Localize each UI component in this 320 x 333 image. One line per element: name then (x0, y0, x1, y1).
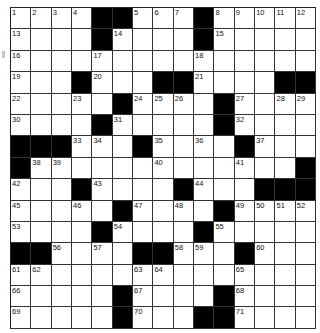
answer-cell[interactable]: 38 (31, 158, 51, 179)
answer-cell[interactable]: 22 (11, 94, 31, 115)
answer-cell[interactable] (153, 201, 173, 222)
answer-cell[interactable]: 33 (72, 136, 92, 157)
answer-cell[interactable]: 59 (194, 243, 214, 264)
answer-cell[interactable] (31, 29, 51, 50)
answer-cell[interactable]: 41 (235, 158, 255, 179)
answer-cell[interactable] (52, 286, 72, 307)
answer-cell[interactable]: 25 (153, 94, 173, 115)
answer-cell[interactable] (31, 72, 51, 93)
answer-cell[interactable] (296, 115, 316, 136)
answer-cell[interactable] (235, 51, 255, 72)
answer-cell[interactable] (296, 29, 316, 50)
answer-cell[interactable] (92, 265, 112, 286)
answer-cell[interactable] (255, 158, 275, 179)
answer-cell[interactable] (214, 158, 234, 179)
answer-cell[interactable]: 8 (214, 8, 234, 29)
answer-cell[interactable]: 11 (275, 8, 295, 29)
answer-cell[interactable] (52, 307, 72, 328)
answer-cell[interactable] (133, 222, 153, 243)
answer-cell[interactable] (153, 29, 173, 50)
answer-cell[interactable]: 6 (153, 8, 173, 29)
answer-cell[interactable]: 30 (11, 115, 31, 136)
answer-cell[interactable] (92, 94, 112, 115)
answer-cell[interactable] (214, 179, 234, 200)
answer-cell[interactable]: 54 (113, 222, 133, 243)
answer-cell[interactable] (72, 158, 92, 179)
answer-cell[interactable] (275, 243, 295, 264)
answer-cell[interactable] (72, 243, 92, 264)
answer-cell[interactable] (194, 201, 214, 222)
answer-cell[interactable] (174, 51, 194, 72)
answer-cell[interactable] (194, 115, 214, 136)
answer-cell[interactable] (174, 158, 194, 179)
answer-cell[interactable]: 20 (92, 72, 112, 93)
answer-cell[interactable]: 27 (235, 94, 255, 115)
answer-cell[interactable]: 35 (153, 136, 173, 157)
answer-cell[interactable] (255, 222, 275, 243)
answer-cell[interactable]: 28 (275, 94, 295, 115)
answer-cell[interactable] (52, 265, 72, 286)
answer-cell[interactable] (296, 222, 316, 243)
answer-cell[interactable]: 42 (11, 179, 31, 200)
answer-cell[interactable] (52, 115, 72, 136)
answer-cell[interactable]: 32 (235, 115, 255, 136)
answer-cell[interactable]: 71 (235, 307, 255, 328)
answer-cell[interactable] (31, 94, 51, 115)
answer-cell[interactable]: 44 (194, 179, 214, 200)
answer-cell[interactable] (194, 158, 214, 179)
answer-cell[interactable]: 57 (92, 243, 112, 264)
answer-cell[interactable]: 51 (275, 201, 295, 222)
answer-cell[interactable] (194, 94, 214, 115)
answer-cell[interactable] (275, 115, 295, 136)
answer-cell[interactable] (174, 222, 194, 243)
answer-cell[interactable] (113, 136, 133, 157)
answer-cell[interactable]: 4 (72, 8, 92, 29)
answer-cell[interactable]: 18 (194, 51, 214, 72)
answer-cell[interactable] (92, 201, 112, 222)
answer-cell[interactable]: 66 (11, 286, 31, 307)
answer-cell[interactable]: 40 (153, 158, 173, 179)
answer-cell[interactable]: 43 (92, 179, 112, 200)
answer-cell[interactable] (255, 115, 275, 136)
answer-cell[interactable]: 26 (174, 94, 194, 115)
answer-cell[interactable] (31, 201, 51, 222)
answer-cell[interactable] (113, 72, 133, 93)
answer-cell[interactable] (52, 222, 72, 243)
answer-cell[interactable] (92, 307, 112, 328)
answer-cell[interactable]: 15 (214, 29, 234, 50)
answer-cell[interactable] (31, 222, 51, 243)
answer-cell[interactable]: 19 (11, 72, 31, 93)
answer-cell[interactable]: 34 (92, 136, 112, 157)
answer-cell[interactable] (296, 136, 316, 157)
answer-cell[interactable]: 50 (255, 201, 275, 222)
answer-cell[interactable]: 45 (11, 201, 31, 222)
answer-cell[interactable]: 5 (133, 8, 153, 29)
answer-cell[interactable] (52, 72, 72, 93)
answer-cell[interactable] (133, 179, 153, 200)
answer-cell[interactable]: 68 (235, 286, 255, 307)
answer-cell[interactable]: 14 (113, 29, 133, 50)
answer-cell[interactable]: 60 (255, 243, 275, 264)
answer-cell[interactable] (92, 158, 112, 179)
answer-cell[interactable] (72, 265, 92, 286)
answer-cell[interactable]: 48 (174, 201, 194, 222)
answer-cell[interactable] (72, 222, 92, 243)
answer-cell[interactable] (296, 51, 316, 72)
answer-cell[interactable] (52, 51, 72, 72)
answer-cell[interactable] (255, 29, 275, 50)
answer-cell[interactable] (296, 307, 316, 328)
answer-cell[interactable] (133, 72, 153, 93)
answer-cell[interactable]: 67 (133, 286, 153, 307)
answer-cell[interactable]: 1 (11, 8, 31, 29)
answer-cell[interactable] (174, 286, 194, 307)
answer-cell[interactable] (255, 286, 275, 307)
answer-cell[interactable]: 16 (11, 51, 31, 72)
answer-cell[interactable] (214, 72, 234, 93)
answer-cell[interactable] (296, 286, 316, 307)
answer-cell[interactable] (275, 51, 295, 72)
answer-cell[interactable] (31, 307, 51, 328)
answer-cell[interactable]: 63 (133, 265, 153, 286)
answer-cell[interactable] (296, 243, 316, 264)
answer-cell[interactable]: 62 (31, 265, 51, 286)
answer-cell[interactable] (255, 94, 275, 115)
